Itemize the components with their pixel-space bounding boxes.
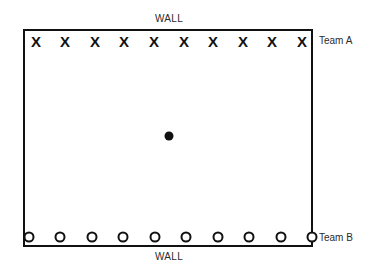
team-a-x-marker-1: X	[31, 34, 41, 49]
team-a-x-marker-9: X	[267, 34, 277, 49]
team-b-o-marker-7	[213, 232, 224, 243]
wall-label-bottom: WALL	[0, 251, 338, 262]
ball-marker	[165, 132, 174, 141]
team-a-x-marker-4: X	[119, 34, 129, 49]
team-a-label: Team A	[319, 35, 352, 46]
diagram-canvas: WALL XXXXXXXXXX Team A Team B WALL	[0, 0, 381, 275]
team-b-o-marker-8	[244, 232, 255, 243]
team-a-x-marker-7: X	[208, 34, 218, 49]
team-b-o-marker-1	[24, 232, 35, 243]
team-b-o-marker-2	[55, 232, 66, 243]
team-a-x-marker-3: X	[90, 34, 100, 49]
wall-label-top: WALL	[0, 13, 338, 24]
team-a-x-marker-6: X	[179, 34, 189, 49]
team-b-o-marker-3	[87, 232, 98, 243]
team-b-o-marker-4	[118, 232, 129, 243]
team-b-o-marker-6	[181, 232, 192, 243]
team-a-x-marker-5: X	[149, 34, 159, 49]
team-b-o-marker-9	[276, 232, 287, 243]
team-a-x-marker-8: X	[238, 34, 248, 49]
team-b-o-marker-5	[150, 232, 161, 243]
team-a-x-marker-10: X	[297, 34, 307, 49]
team-b-label: Team B	[319, 232, 353, 243]
team-a-x-marker-2: X	[60, 34, 70, 49]
team-b-o-marker-10	[307, 232, 318, 243]
